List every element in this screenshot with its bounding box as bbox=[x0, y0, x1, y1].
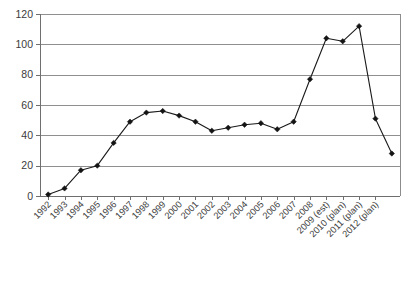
y-tick-label-40: 40 bbox=[21, 129, 33, 141]
x-axis-tick-marks bbox=[49, 196, 376, 200]
y-tick-label-120: 120 bbox=[15, 8, 33, 20]
y-tick-label-0: 0 bbox=[27, 190, 33, 202]
chart-background bbox=[0, 0, 412, 292]
chart-container: 020406080100120 199219931994199519961997… bbox=[0, 0, 412, 292]
y-tick-label-80: 80 bbox=[21, 68, 33, 80]
line-chart: 020406080100120 199219931994199519961997… bbox=[0, 0, 412, 292]
y-tick-label-60: 60 bbox=[21, 99, 33, 111]
y-tick-label-100: 100 bbox=[15, 38, 33, 50]
y-tick-label-20: 20 bbox=[21, 159, 33, 171]
